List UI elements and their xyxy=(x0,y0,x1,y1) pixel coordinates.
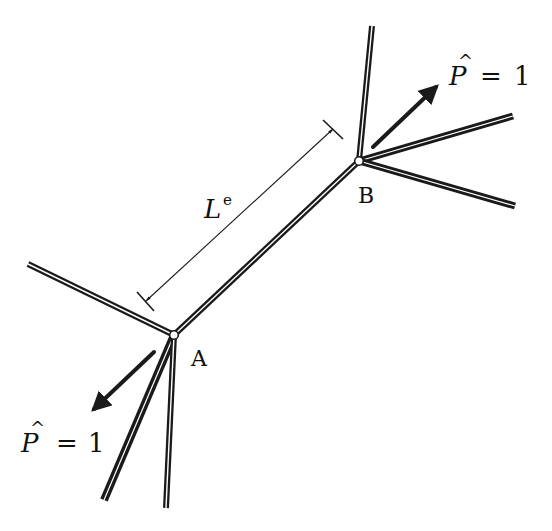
members-at-node-a xyxy=(28,264,174,508)
node-b-label: B xyxy=(358,183,374,208)
load-hat-a: ^ xyxy=(30,418,45,439)
load-value-b: 1 xyxy=(514,61,531,91)
truss-element-diagram: B A L e P ^ = 1 P ^ = 1 xyxy=(0,0,552,531)
load-label-a: P ^ = 1 xyxy=(20,418,105,458)
load-equals-a: = xyxy=(56,428,78,458)
member-b-top xyxy=(359,26,372,161)
node-a xyxy=(170,331,179,340)
load-equals-b: = xyxy=(480,61,502,91)
dimension-tick-bottom xyxy=(137,292,154,311)
load-label-b: P ^ = 1 xyxy=(448,51,531,91)
member-a-bottom-left xyxy=(104,335,174,500)
node-b xyxy=(355,157,364,166)
length-dimension xyxy=(137,120,343,311)
load-hat-b: ^ xyxy=(458,51,473,72)
member-a-left xyxy=(28,264,174,335)
member-b-lower-right xyxy=(359,161,515,206)
element-a-b xyxy=(174,161,359,335)
length-symbol: L xyxy=(203,194,221,224)
members-at-node-b xyxy=(359,26,515,206)
load-value-a: 1 xyxy=(88,428,105,458)
node-a-label: A xyxy=(190,346,208,371)
length-superscript: e xyxy=(223,191,232,209)
element-length-label: L e xyxy=(203,191,232,224)
